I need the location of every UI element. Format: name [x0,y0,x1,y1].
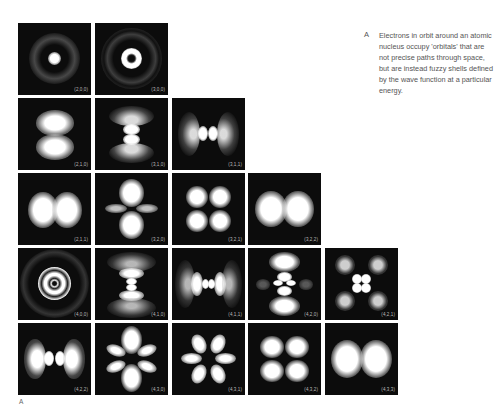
orbital-lobe-right [52,192,82,228]
orbital-panel-3-2-2: (3,2,2) [248,173,321,245]
orbital-arc-left [24,339,46,379]
orbital-panel-4-2-1: (4,2,1) [325,248,398,320]
quantum-label: (4,2,0) [304,312,318,317]
figure-label: A [19,398,23,405]
quantum-label: (4,0,0) [74,312,88,317]
orbital-arc-right [217,112,239,156]
orbital-panel-4-2-2: (4,2,2) [18,323,91,395]
orbital-torus-right [136,204,158,213]
figure-caption: Electrons in orbit around an atomic nucl… [379,30,494,96]
orbital-inner-ring-left [273,280,283,286]
orbital-panel-2-1-1: (2,1,1) [18,173,91,245]
quantum-label: (4,1,0) [151,312,165,317]
quantum-label: (3,0,0) [151,87,165,92]
orbital-inner-ring-right [286,280,296,286]
orbital-arc-top [109,106,154,126]
quantum-label: (4,3,3) [381,387,395,392]
orbital-panel-4-1-0: (4,1,0) [95,248,168,320]
quantum-label: (3,1,0) [151,162,165,167]
orbital-panel-2-1-0: (2,1,0) [18,98,91,170]
orbital-outer-bl [335,291,355,311]
orbital-panel-3-1-0: (3,1,0) [95,98,168,170]
orbital-petal-right [215,353,236,364]
orbital-outer-tr [368,255,388,275]
orbital-core-left [44,351,54,366]
orbital-lobe-right [360,340,392,378]
orbital-panel-4-0-0: (4,0,0) [18,248,91,320]
orbital-panel-4-3-2: (4,3,2) [248,323,321,395]
orbital-lobe-tr [285,336,309,358]
quantum-label: (4,3,2) [304,387,318,392]
orbital-lobe-bottom [119,211,144,239]
orbital-arc-right [63,339,85,379]
orbital-panel-4-3-1: (4,3,1) [172,323,245,395]
orbital-lobe-left [331,340,363,378]
orbital-panel-4-1-1: (4,1,1) [172,248,245,320]
orbital-lobe-inner-left [198,126,208,141]
quantum-label: (2,1,0) [74,162,88,167]
orbital-outer-tl [335,255,355,275]
orbital-petal-left [181,353,202,364]
orbital-torus-left [105,204,127,213]
orbital-inner-ring [121,48,142,69]
quantum-label: (3,2,1) [228,237,242,242]
orbital-arc-left [178,112,200,156]
orbital-inner-br [361,283,371,293]
orbital-inner-bottom [277,286,292,296]
orbital-arc-right [222,260,242,308]
quantum-label: (3,1,1) [228,162,242,167]
orbital-inner-rings [38,267,71,300]
caption-letter: A [364,30,369,39]
orbital-panel-3-0-0: (3,0,0) [95,23,168,95]
orbital-panel-4-3-3: (4,3,3) [325,323,398,395]
orbital-lobe-br [285,360,309,382]
orbital-panel-3-2-0: (3,2,0) [95,173,168,245]
quantum-label: (4,3,1) [228,387,242,392]
orbital-panel-2-0-0: (2,0,0) [18,23,91,95]
orbital-panel-3-1-1: (3,1,1) [172,98,245,170]
orbital-arc-bottom [109,143,154,163]
orbital-lobe-bl [186,210,208,232]
orbital-panel-4-3-0: (4,3,0) [95,323,168,395]
quantum-label: (2,1,1) [74,237,88,242]
orbital-torus-right [299,279,313,290]
quantum-label: (4,2,1) [381,312,395,317]
orbital-lobe-tl [186,186,208,208]
orbital-petal-br [207,362,228,386]
orbital-lobe-br [209,210,231,232]
orbital-lobe-bottom [36,134,74,160]
orbital-lobe-top [36,110,74,136]
quantum-label: (4,2,2) [74,387,88,392]
quantum-label: (3,2,2) [304,237,318,242]
orbital-lobe-right [282,191,314,227]
orbital-lobe-bl [260,360,284,382]
orbital-lobe-bottom [269,296,300,316]
quantum-label: (4,1,1) [228,312,242,317]
orbital-lobe-tr [209,186,231,208]
orbital-lobe-bottom [121,364,142,392]
orbital-petal-bl [188,362,209,386]
orbital-lobe-tl [260,336,284,358]
orbital-core [48,52,61,65]
orbital-torus-left [256,279,270,290]
quantum-label: (3,2,0) [151,237,165,242]
orbital-lobe-top [119,179,144,207]
quantum-label: (4,3,0) [151,387,165,392]
orbital-panel-3-2-1: (3,2,1) [172,173,245,245]
orbital-arc-bottom [107,298,156,318]
quantum-label: (2,0,0) [74,87,88,92]
orbital-lobe-top [269,252,300,272]
orbital-outer-br [368,291,388,311]
orbital-panel-4-2-0: (4,2,0) [248,248,321,320]
